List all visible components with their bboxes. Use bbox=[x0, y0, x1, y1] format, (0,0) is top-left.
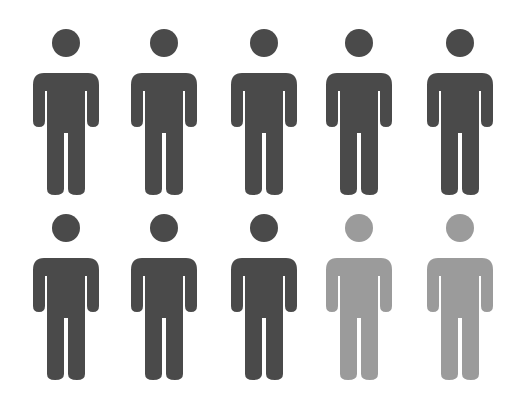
person-icon bbox=[231, 29, 297, 195]
person-icon bbox=[326, 214, 392, 380]
icon-grid bbox=[33, 29, 493, 380]
person-icon bbox=[131, 29, 197, 195]
person-icon bbox=[33, 29, 99, 195]
person-icon bbox=[427, 214, 493, 380]
person-icon bbox=[326, 29, 392, 195]
person-icon bbox=[427, 29, 493, 195]
pictogram-chart bbox=[0, 0, 522, 397]
person-icon bbox=[231, 214, 297, 380]
person-icon bbox=[131, 214, 197, 380]
person-icon bbox=[33, 214, 99, 380]
